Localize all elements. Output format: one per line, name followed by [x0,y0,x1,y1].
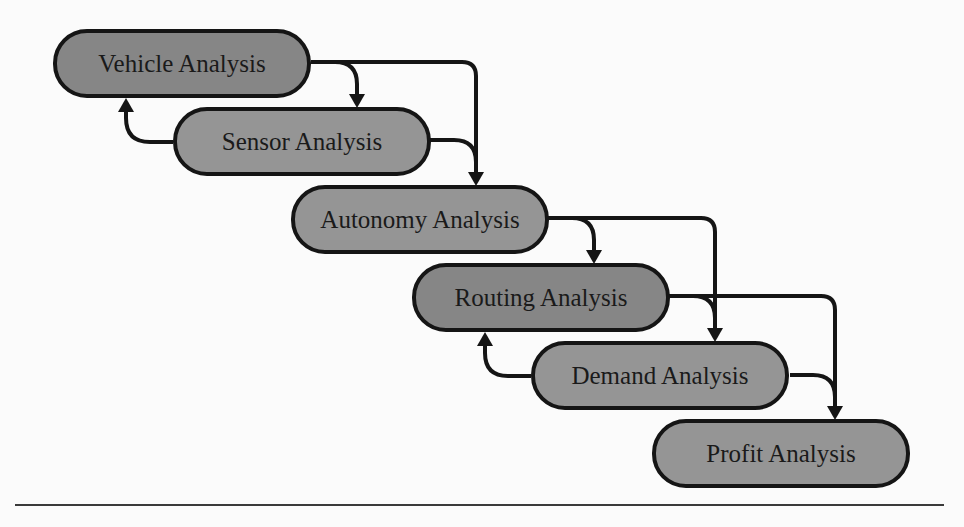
node-autonomy-analysis: Autonomy Analysis [291,185,549,254]
node-label: Vehicle Analysis [98,50,265,78]
node-label: Demand Analysis [571,362,748,390]
diagram-canvas: Vehicle Analysis Sensor Analysis Autonom… [0,0,964,527]
node-vehicle-analysis: Vehicle Analysis [53,29,311,98]
node-label: Sensor Analysis [222,128,382,156]
edge-sensor-to-autonomy [430,140,476,162]
node-label: Routing Analysis [455,284,628,312]
node-label: Profit Analysis [706,440,855,468]
edge-routing-to-demand [669,296,715,318]
edge-sensor-to-vehicle [118,98,173,142]
node-routing-analysis: Routing Analysis [412,263,670,332]
node-profit-analysis: Profit Analysis [652,419,910,488]
edge-vehicle-to-sensor [311,62,365,108]
node-sensor-analysis: Sensor Analysis [173,107,431,176]
edge-demand-to-routing [477,332,531,376]
edge-autonomy-to-routing [548,218,602,264]
horizontal-rule [15,504,944,506]
node-label: Autonomy Analysis [320,206,519,234]
node-demand-analysis: Demand Analysis [531,341,789,410]
edge-demand-to-profit [790,375,835,397]
